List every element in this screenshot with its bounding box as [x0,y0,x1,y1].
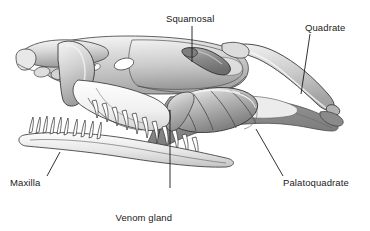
label-quadrate: Quadrate [305,22,345,33]
tooth-l2 [36,117,40,133]
snake-skull-illustration [0,0,370,231]
label-palatoquadrate: Palatoquadrate [283,177,349,188]
tooth-l3 [43,116,47,133]
premaxilla [16,49,36,70]
figure-canvas: Squamosal Quadrate Maxilla Venom gland w… [0,0,370,231]
label-maxilla: Maxilla [10,177,40,188]
tooth-l5 [57,117,61,134]
mandible-bone [19,133,234,168]
label-venom-gland-line1: Venom gland [114,212,174,223]
label-venom-gland: Venom gland with long duct [114,190,174,231]
label-squamosal: Squamosal [166,13,214,24]
leader-palatoquadrate [256,129,283,176]
tooth-l1 [29,117,33,133]
tooth-l4 [50,117,54,134]
leader-maxilla [47,152,60,176]
